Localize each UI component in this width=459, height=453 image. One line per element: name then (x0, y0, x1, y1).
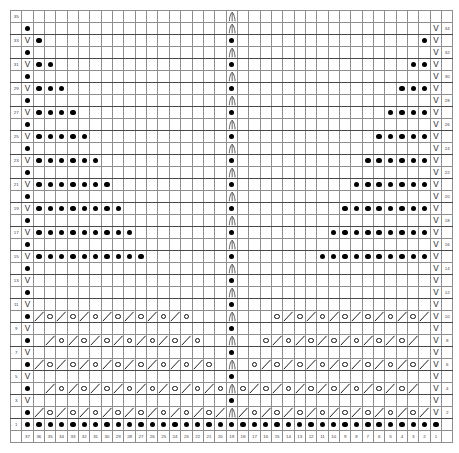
stitch-cell[interactable] (237, 371, 248, 383)
stitch-cell[interactable] (249, 95, 260, 107)
stitch-cell[interactable] (33, 347, 44, 359)
stitch-cell[interactable] (203, 131, 214, 143)
stitch-cell[interactable] (271, 59, 282, 71)
stitch-cell[interactable]: V (22, 299, 33, 311)
stitch-cell[interactable] (124, 323, 135, 335)
stitch-cell[interactable] (147, 419, 158, 431)
stitch-cell[interactable] (408, 191, 419, 203)
stitch-cell[interactable] (22, 191, 33, 203)
stitch-cell[interactable] (135, 251, 146, 263)
stitch-cell[interactable] (79, 95, 90, 107)
stitch-cell[interactable] (385, 239, 396, 251)
stitch-cell[interactable] (158, 287, 169, 299)
stitch-cell[interactable] (419, 407, 430, 419)
stitch-cell[interactable] (396, 131, 407, 143)
stitch-cell[interactable] (33, 395, 44, 407)
stitch-cell[interactable] (317, 179, 328, 191)
stitch-cell[interactable] (385, 11, 396, 23)
stitch-cell[interactable] (396, 407, 407, 419)
stitch-cell[interactable] (317, 311, 328, 323)
stitch-cell[interactable] (317, 359, 328, 371)
stitch-cell[interactable] (203, 287, 214, 299)
stitch-cell[interactable] (45, 203, 56, 215)
stitch-cell[interactable] (362, 239, 373, 251)
stitch-cell[interactable] (135, 263, 146, 275)
stitch-cell[interactable] (396, 347, 407, 359)
stitch-cell[interactable] (215, 287, 226, 299)
stitch-cell[interactable] (135, 395, 146, 407)
stitch-cell[interactable] (408, 407, 419, 419)
stitch-cell[interactable] (192, 179, 203, 191)
stitch-cell[interactable] (351, 167, 362, 179)
stitch-cell[interactable] (385, 167, 396, 179)
stitch-cell[interactable] (192, 263, 203, 275)
stitch-cell[interactable] (385, 227, 396, 239)
stitch-cell[interactable] (181, 215, 192, 227)
stitch-cell[interactable] (237, 11, 248, 23)
stitch-cell[interactable] (124, 407, 135, 419)
stitch-cell[interactable] (385, 155, 396, 167)
stitch-cell[interactable] (385, 287, 396, 299)
stitch-cell[interactable] (283, 83, 294, 95)
stitch-cell[interactable] (135, 359, 146, 371)
stitch-cell[interactable] (135, 47, 146, 59)
stitch-cell[interactable] (271, 347, 282, 359)
stitch-cell[interactable] (45, 215, 56, 227)
stitch-cell[interactable] (158, 83, 169, 95)
stitch-cell[interactable] (328, 155, 339, 167)
stitch-cell[interactable] (22, 71, 33, 83)
stitch-cell[interactable] (124, 155, 135, 167)
stitch-cell[interactable] (362, 347, 373, 359)
stitch-cell[interactable]: V (430, 227, 441, 239)
stitch-cell[interactable] (203, 35, 214, 47)
stitch-cell[interactable] (56, 155, 67, 167)
stitch-cell[interactable] (408, 239, 419, 251)
stitch-cell[interactable] (271, 275, 282, 287)
stitch-cell[interactable] (56, 179, 67, 191)
stitch-cell[interactable] (328, 359, 339, 371)
stitch-cell[interactable] (249, 227, 260, 239)
stitch-cell[interactable] (181, 179, 192, 191)
stitch-cell[interactable] (419, 371, 430, 383)
stitch-cell[interactable] (339, 239, 350, 251)
stitch-cell[interactable] (408, 215, 419, 227)
stitch-cell[interactable] (249, 203, 260, 215)
stitch-cell[interactable] (113, 407, 124, 419)
stitch-cell[interactable] (147, 71, 158, 83)
stitch-cell[interactable] (328, 287, 339, 299)
stitch-cell[interactable] (408, 119, 419, 131)
stitch-cell[interactable] (408, 311, 419, 323)
stitch-cell[interactable] (317, 335, 328, 347)
stitch-cell[interactable] (362, 179, 373, 191)
stitch-cell[interactable] (226, 95, 237, 107)
stitch-cell[interactable] (249, 83, 260, 95)
stitch-cell[interactable] (101, 311, 112, 323)
stitch-cell[interactable] (135, 371, 146, 383)
stitch-cell[interactable] (226, 71, 237, 83)
stitch-cell[interactable] (67, 59, 78, 71)
stitch-cell[interactable] (351, 275, 362, 287)
stitch-cell[interactable] (260, 311, 271, 323)
stitch-cell[interactable] (328, 407, 339, 419)
stitch-cell[interactable]: V (22, 323, 33, 335)
stitch-cell[interactable] (215, 191, 226, 203)
stitch-cell[interactable] (305, 143, 316, 155)
stitch-cell[interactable] (79, 119, 90, 131)
stitch-cell[interactable] (67, 263, 78, 275)
stitch-cell[interactable] (90, 335, 101, 347)
stitch-cell[interactable] (396, 59, 407, 71)
stitch-cell[interactable] (249, 71, 260, 83)
stitch-cell[interactable] (215, 359, 226, 371)
stitch-cell[interactable] (124, 143, 135, 155)
stitch-cell[interactable] (271, 119, 282, 131)
stitch-cell[interactable] (260, 59, 271, 71)
stitch-cell[interactable] (101, 119, 112, 131)
stitch-cell[interactable] (113, 395, 124, 407)
stitch-cell[interactable] (215, 83, 226, 95)
stitch-cell[interactable] (135, 71, 146, 83)
stitch-cell[interactable] (294, 287, 305, 299)
stitch-cell[interactable] (249, 23, 260, 35)
stitch-cell[interactable] (67, 143, 78, 155)
stitch-cell[interactable] (169, 419, 180, 431)
stitch-cell[interactable] (385, 179, 396, 191)
